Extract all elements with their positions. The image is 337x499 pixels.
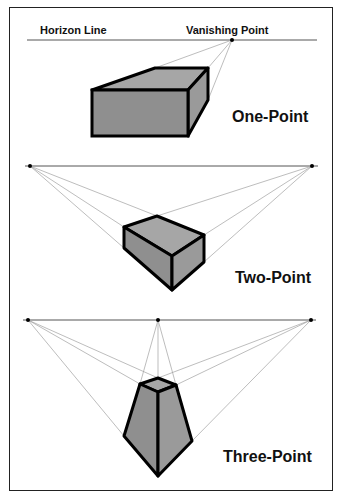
vanishing-point: [230, 38, 234, 42]
three-point-title: Three-Point: [223, 448, 312, 466]
one-point-title: One-Point: [232, 108, 308, 126]
horizon-line-label: Horizon Line: [40, 24, 107, 36]
vanishing-point-center: [156, 318, 160, 322]
two-point-title: Two-Point: [235, 269, 311, 287]
vanishing-point-left: [28, 164, 32, 168]
vanishing-point-label: Vanishing Point: [186, 24, 269, 36]
vanishing-point-right: [310, 164, 314, 168]
vanishing-point-left: [26, 318, 30, 322]
perspective-diagram: [0, 0, 337, 499]
vanishing-point-right: [309, 318, 313, 322]
